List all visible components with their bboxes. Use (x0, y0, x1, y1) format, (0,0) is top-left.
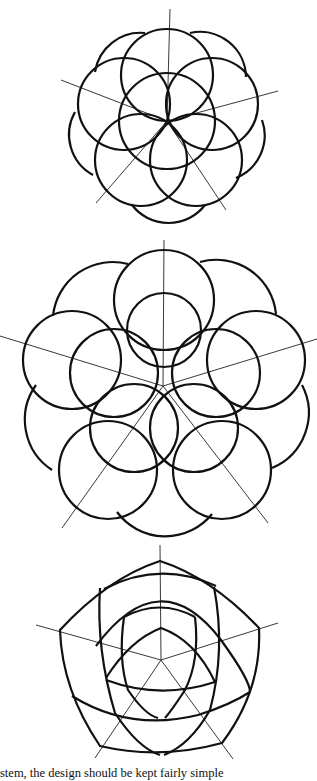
figure-3-pentagon-lattice (36, 545, 278, 759)
figure-2-rosette (0, 240, 317, 536)
caption-text: stem, the design should be kept fairly s… (0, 766, 317, 781)
figure-1-rosette (61, 9, 278, 223)
